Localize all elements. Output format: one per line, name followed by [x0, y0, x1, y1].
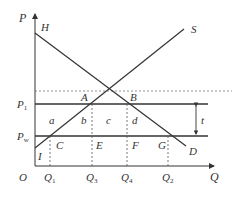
x-axis-label: Q	[210, 170, 219, 184]
origin-label: O	[19, 171, 27, 183]
area-d-label: d	[132, 114, 138, 126]
point-b-label: B	[130, 91, 137, 103]
area-b-label: b	[81, 114, 87, 126]
tariff-label: t	[201, 114, 205, 126]
q4-label: Q4	[121, 171, 133, 185]
area-c-label: c	[106, 114, 111, 126]
point-a-label: A	[80, 91, 88, 103]
area-a-label: a	[49, 114, 55, 126]
supply-end-label: S	[191, 23, 197, 35]
q1-label: Q1	[44, 171, 56, 185]
point-i-label: I	[37, 150, 43, 162]
y-axis-label: P	[18, 11, 27, 25]
point-f-label: F	[131, 139, 139, 151]
point-e-label: E	[95, 139, 103, 151]
supply-curve	[35, 29, 184, 148]
q2-label: Q2	[162, 171, 174, 185]
point-c-label: C	[56, 139, 64, 151]
q3-label: Q3	[86, 171, 98, 185]
demand-start-label: H	[40, 21, 50, 33]
tariff-diagram: P Q O H D S P1 Pw A B C E F G I a b c d …	[0, 0, 238, 197]
pw-label: Pw	[16, 130, 30, 144]
point-g-label: G	[158, 139, 166, 151]
demand-curve	[35, 33, 186, 146]
demand-end-label: D	[188, 145, 197, 157]
p1-label: P1	[16, 98, 28, 112]
